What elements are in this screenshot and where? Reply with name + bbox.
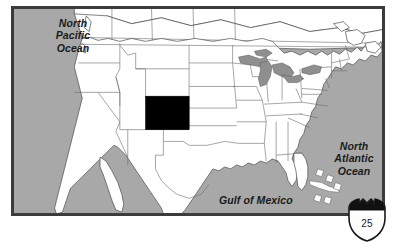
highlighted-state-colorado (146, 96, 190, 129)
label-north-atlantic-ocean: North Atlantic Ocean (325, 140, 383, 177)
label-north-pacific-ocean: North Pacific Ocean (45, 17, 101, 54)
shield-route-number: 25 (346, 218, 388, 229)
map-frame: .land { fill:#ffffff; stroke:#4a4a4a; st… (11, 6, 385, 216)
label-north-pacific-line-3: Ocean (45, 42, 101, 54)
label-north-atlantic-line-1: North (325, 140, 383, 152)
label-north-pacific-line-1: North (45, 17, 101, 29)
locator-map-figure: .land { fill:#ffffff; stroke:#4a4a4a; st… (0, 0, 402, 244)
label-gulf-of-mexico: Gulf of Mexico (219, 194, 309, 206)
label-north-pacific-line-2: Pacific (45, 29, 101, 41)
label-north-atlantic-line-2: Atlantic (325, 152, 383, 164)
label-north-atlantic-line-3: Ocean (325, 165, 383, 177)
shield-top-band (349, 199, 385, 211)
